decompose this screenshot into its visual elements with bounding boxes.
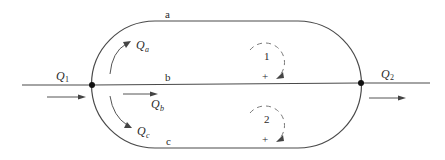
loop-1-arrowhead-icon — [276, 72, 284, 79]
svg-text:1: 1 — [65, 75, 69, 84]
branch-b-flow-arrow-icon — [123, 92, 158, 97]
loop-1-sign: + — [262, 70, 268, 82]
svg-text:a: a — [145, 45, 149, 54]
loop-1-number: 1 — [264, 50, 270, 62]
loop-2-indicator: 2 + — [250, 106, 285, 145]
branch-c-flow-label: Q c — [137, 124, 150, 140]
svg-text:c: c — [146, 131, 150, 140]
branch-label-a: a — [165, 8, 170, 20]
branch-b-flow-label: Q b — [151, 97, 164, 113]
inflow-label-q1: Q 1 — [56, 69, 69, 84]
loop-1-indicator: 1 + — [250, 43, 285, 82]
outflow-label-q2: Q 2 — [381, 67, 394, 82]
branch-a-flow-arrow-icon — [110, 41, 131, 74]
branch-a-flow-label: Q a — [136, 38, 149, 54]
branch-b-pipe — [92, 83, 361, 85]
loop-2-arrowhead-icon — [276, 135, 284, 142]
loop-2-sign: + — [262, 133, 268, 145]
svg-text:Q: Q — [136, 38, 145, 52]
svg-text:Q: Q — [381, 67, 390, 81]
branch-c-flow-arrow-icon — [110, 96, 132, 128]
svg-text:2: 2 — [390, 73, 394, 82]
inflow-arrow-icon — [47, 95, 86, 100]
loop-2-number: 2 — [264, 113, 270, 125]
svg-text:Q: Q — [151, 97, 160, 111]
svg-text:Q: Q — [56, 69, 65, 83]
svg-text:Q: Q — [137, 124, 146, 138]
branch-label-c: c — [166, 135, 171, 147]
outflow-arrow-icon — [369, 96, 406, 101]
right-junction-node — [358, 80, 364, 86]
pipe-network-diagram: a b c Q 1 Q 2 Q a Q b Q c — [0, 0, 445, 160]
svg-text:b: b — [160, 104, 164, 113]
branch-label-b: b — [165, 71, 171, 83]
left-junction-node — [89, 82, 95, 88]
